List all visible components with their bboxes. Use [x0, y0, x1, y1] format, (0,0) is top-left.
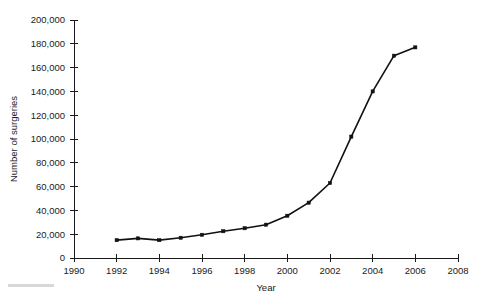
- data-point-marker: [136, 237, 139, 240]
- data-point-marker: [115, 239, 118, 242]
- x-tick-label: 2004: [362, 265, 383, 276]
- x-tick-label: 1996: [191, 265, 212, 276]
- data-point-marker: [158, 239, 161, 242]
- y-tick-label: 160,000: [31, 62, 65, 73]
- data-point-marker: [286, 214, 289, 217]
- data-point-marker: [222, 230, 225, 233]
- data-series-line: [117, 47, 416, 240]
- data-point-marker: [371, 90, 374, 93]
- x-tick-label: 1994: [149, 265, 170, 276]
- y-tick-label: 0: [60, 252, 65, 263]
- x-tick-label: 1998: [234, 265, 255, 276]
- x-tick-label: 1992: [106, 265, 127, 276]
- line-chart: 020,00040,00060,00080,000100,000120,0001…: [0, 0, 502, 295]
- y-tick-label: 60,000: [36, 181, 65, 192]
- y-tick-label: 40,000: [36, 205, 65, 216]
- y-tick-label: 180,000: [31, 38, 65, 49]
- x-axis-tick-labels: 1990199219941996199820002002200420062008: [63, 265, 468, 276]
- y-tick-label: 100,000: [31, 133, 65, 144]
- y-tick-label: 80,000: [36, 157, 65, 168]
- data-point-marker: [414, 46, 417, 49]
- data-series-markers: [115, 46, 417, 242]
- data-point-marker: [392, 54, 395, 57]
- y-tick-label: 120,000: [31, 110, 65, 121]
- x-tick-label: 1990: [63, 265, 84, 276]
- chart-container: 020,00040,00060,00080,000100,000120,0001…: [0, 0, 502, 295]
- x-tick-label: 2002: [319, 265, 340, 276]
- data-point-marker: [264, 223, 267, 226]
- x-tick-label: 2006: [405, 265, 426, 276]
- y-tick-label: 140,000: [31, 86, 65, 97]
- y-axis-title: Number of surgeries: [8, 96, 19, 182]
- y-tick-label: 20,000: [36, 229, 65, 240]
- data-point-marker: [200, 233, 203, 236]
- data-point-marker: [307, 201, 310, 204]
- caption-artifact: [8, 284, 54, 287]
- data-point-marker: [328, 181, 331, 184]
- x-axis-title: Year: [256, 282, 275, 293]
- data-point-marker: [243, 227, 246, 230]
- y-tick-label: 200,000: [31, 14, 65, 25]
- data-point-marker: [179, 236, 182, 239]
- x-tick-label: 2008: [447, 265, 468, 276]
- y-axis-tick-labels: 020,00040,00060,00080,000100,000120,0001…: [31, 14, 65, 263]
- x-tick-label: 2000: [277, 265, 298, 276]
- data-point-marker: [350, 135, 353, 138]
